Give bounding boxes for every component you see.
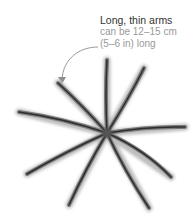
arm-length-annotation: Long, thin arms can be 12–15 cm (5–6 in)…	[100, 14, 177, 50]
annotation-line-2: (5–6 in) long	[100, 38, 177, 50]
annotation-title: Long, thin arms	[100, 14, 177, 26]
starfish-arms-mid	[19, 60, 185, 208]
annotation-line-1: can be 12–15 cm	[100, 26, 177, 38]
starfish-central-disc	[102, 128, 112, 138]
annotation-arrow	[58, 47, 98, 84]
